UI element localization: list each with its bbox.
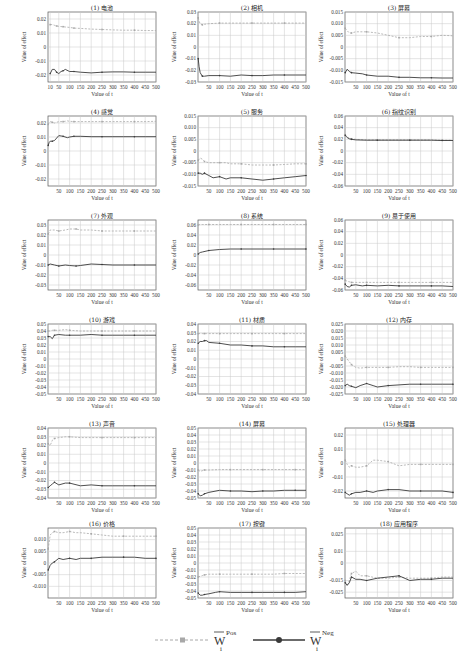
chart-panel-18: 501001502002503003504004505000.0250.010-…: [305, 518, 455, 622]
y-tick-label: 0: [340, 460, 343, 466]
x-tick-label: 250: [248, 188, 256, 194]
x-tick-label: 250: [248, 600, 256, 606]
x-tick-label: 150: [77, 500, 85, 506]
y-tick-label: -0.06: [332, 287, 343, 293]
x-tick-label: 150: [227, 84, 235, 90]
data-point-neg: [47, 264, 49, 266]
data-point-pos: [294, 469, 296, 471]
y-tick-label: 0.02: [334, 432, 343, 438]
x-tick-label: 200: [384, 600, 392, 606]
x-tick-label: 250: [248, 292, 256, 298]
y-tick-label: -0.02: [185, 574, 196, 580]
chart-svg: 501001502002503003504004505000.0150.0100…: [158, 106, 308, 210]
y-tick-label: 0: [340, 560, 343, 566]
y-tick-label: 0.06: [334, 217, 343, 223]
y-tick-label: -0.02: [35, 477, 46, 483]
y-axis-label: Value of effect: [171, 547, 177, 578]
chart-title: (2) 相机: [241, 4, 263, 12]
x-tick-label: 300: [406, 292, 414, 298]
x-tick-label: 300: [259, 396, 267, 402]
data-point-neg: [284, 74, 286, 76]
data-point-pos: [452, 367, 454, 369]
y-tick-label: 0.025: [331, 531, 343, 537]
x-tick-label: 450: [438, 292, 446, 298]
data-point-neg: [431, 77, 433, 79]
data-point-neg: [431, 579, 433, 581]
y-tick-label: 0.02: [187, 446, 196, 452]
chart-title: (9) 易于使用: [382, 212, 416, 220]
y-tick-label: -0.05: [185, 495, 196, 501]
data-point-pos: [366, 465, 368, 467]
y-tick-label: -0.010: [330, 370, 344, 376]
data-point-pos: [204, 469, 206, 471]
x-tick-label: 200: [384, 292, 392, 298]
data-point-pos: [101, 121, 103, 123]
x-axis-label: Value of t: [388, 507, 410, 513]
y-tick-label: 0: [43, 560, 46, 566]
y-tick-label: -0.04: [35, 384, 46, 390]
y-tick-label: 0.01: [37, 242, 46, 248]
y-tick-label: 0.025: [331, 321, 343, 327]
x-tick-label: 400: [428, 600, 436, 606]
x-tick-label: 100: [66, 292, 74, 298]
x-tick-label: 350: [417, 292, 425, 298]
data-point-pos: [273, 224, 275, 226]
data-point-pos: [204, 574, 206, 576]
chart-title: (13) 声音: [89, 420, 115, 428]
chart-title: (3) 屏幕: [388, 4, 410, 12]
data-point-pos: [49, 24, 51, 26]
y-axis-label: Value of effect: [21, 31, 27, 62]
data-point-neg: [204, 172, 206, 174]
x-tick-label: 50: [206, 188, 212, 194]
x-tick-label: 200: [237, 500, 245, 506]
data-point-neg: [197, 253, 199, 255]
y-tick-label: -0.015: [330, 377, 344, 383]
chart-svg: 501001502002503003504004505000.060.040.0…: [158, 210, 308, 314]
data-point-neg: [208, 250, 210, 252]
x-tick-label: 200: [237, 292, 245, 298]
data-point-pos: [366, 367, 368, 369]
data-point-neg: [62, 70, 64, 72]
x-axis-label: Value of t: [388, 403, 410, 409]
y-tick-label: -0.03: [185, 581, 196, 587]
y-tick-label: -0.02: [185, 262, 196, 268]
y-axis-label: Value of effect: [21, 547, 27, 578]
data-point-neg: [101, 136, 103, 138]
y-tick-label: 0.01: [37, 349, 46, 355]
data-point-neg: [134, 264, 136, 266]
data-point-neg: [73, 136, 75, 138]
y-axis-label: Value of effect: [21, 239, 27, 270]
y-tick-label: -0.03: [185, 382, 196, 388]
data-point-neg: [284, 346, 286, 348]
x-axis-label: Value of t: [91, 403, 113, 409]
y-axis-label: Value of effect: [171, 31, 177, 62]
chart-title: (4) 感觉: [91, 108, 113, 116]
y-tick-label: 0: [340, 252, 343, 258]
x-tick-label: 150: [374, 500, 382, 506]
x-tick-label: 400: [131, 500, 139, 506]
data-point-neg: [219, 342, 221, 344]
data-point-pos: [351, 32, 353, 34]
y-tick-label: 0: [43, 252, 46, 258]
y-tick-label: -0.02: [185, 373, 196, 379]
x-tick-label: 500: [449, 292, 457, 298]
data-point-pos: [52, 122, 54, 124]
y-tick-label: 0.03: [37, 222, 46, 228]
data-point-neg: [69, 558, 71, 560]
y-tick-label: -0.010: [330, 67, 344, 73]
y-tick-label: -0.04: [185, 391, 196, 397]
data-point-neg: [294, 490, 296, 492]
x-tick-label: 100: [66, 396, 74, 402]
y-tick-label: 0.06: [334, 113, 343, 119]
y-tick-label: 0.02: [37, 232, 46, 238]
data-point-neg: [351, 493, 353, 495]
data-point-neg: [134, 485, 136, 487]
data-point-pos: [123, 535, 125, 537]
x-tick-label: 200: [237, 188, 245, 194]
data-point-neg: [387, 385, 389, 387]
x-tick-label: 300: [259, 188, 267, 194]
data-point-neg: [202, 75, 204, 77]
x-tick-label: 200: [384, 188, 392, 194]
data-point-neg: [54, 481, 56, 483]
y-tick-label: -0.01: [35, 162, 46, 168]
